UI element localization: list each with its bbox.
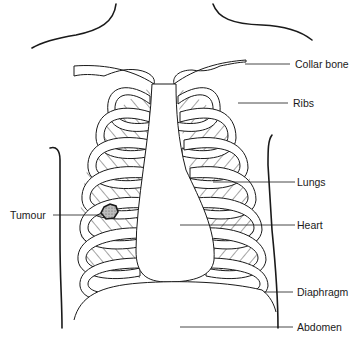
collar-bones <box>74 60 246 84</box>
diaphragm <box>74 282 276 320</box>
label-collar-bone: Collar bone <box>295 59 349 70</box>
label-lungs: Lungs <box>297 177 326 188</box>
label-abdomen: Abdomen <box>297 322 342 333</box>
label-diaphragm: Diaphragm <box>297 287 348 298</box>
label-ribs: Ribs <box>293 98 314 109</box>
label-tumour: Tumour <box>10 210 46 221</box>
label-heart: Heart <box>297 220 323 231</box>
